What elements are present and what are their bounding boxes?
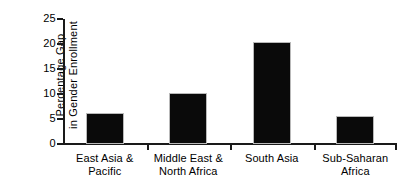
x-axis-category-label: East Asia &Pacific — [63, 152, 147, 178]
x-axis-category-label: Middle East &North Africa — [147, 152, 231, 178]
y-axis-tick-label: 5 — [34, 113, 56, 124]
y-axis-tick-mark — [57, 43, 63, 45]
x-axis-category-label: South Asia — [230, 152, 314, 165]
y-axis-tick-mark — [57, 68, 63, 70]
y-axis-tick-label: 0 — [34, 138, 56, 149]
bar[interactable] — [86, 113, 124, 144]
x-axis-category-label-line: Africa — [314, 165, 398, 178]
x-axis-category-label-line: Middle East & — [147, 152, 231, 165]
y-axis-tick-label: 10 — [34, 88, 56, 99]
x-axis-category-label-line: South Asia — [230, 152, 314, 165]
y-axis-tick-labels: 0510152025 — [34, 0, 56, 189]
bar-chart: Percentage Gap in Gender Enrollment 0510… — [0, 0, 406, 189]
x-axis-tick-mark — [314, 145, 316, 150]
y-axis-tick-mark — [57, 118, 63, 120]
y-axis-tick-label: 25 — [34, 13, 56, 24]
y-axis-tick-label: 15 — [34, 63, 56, 74]
x-axis-end-tick-mark — [395, 145, 397, 150]
x-axis-tick-mark — [230, 145, 232, 150]
x-axis-tick-mark — [147, 145, 149, 150]
y-axis-tick-mark — [57, 93, 63, 95]
x-axis-category-label-line: Sub-Saharan — [314, 152, 398, 165]
x-axis-category-label: Sub-SaharanAfrica — [314, 152, 398, 178]
y-axis-tick-mark — [57, 18, 63, 20]
x-axis-category-label-line: East Asia & — [63, 152, 147, 165]
bar[interactable] — [169, 93, 207, 145]
x-axis-category-label-line: Pacific — [63, 165, 147, 178]
x-axis-category-label-line: North Africa — [147, 165, 231, 178]
bar[interactable] — [253, 42, 291, 145]
bar[interactable] — [336, 116, 374, 144]
y-axis-tick-label: 20 — [34, 38, 56, 49]
plot-area — [63, 19, 397, 144]
y-axis-tick-mark — [57, 143, 63, 145]
